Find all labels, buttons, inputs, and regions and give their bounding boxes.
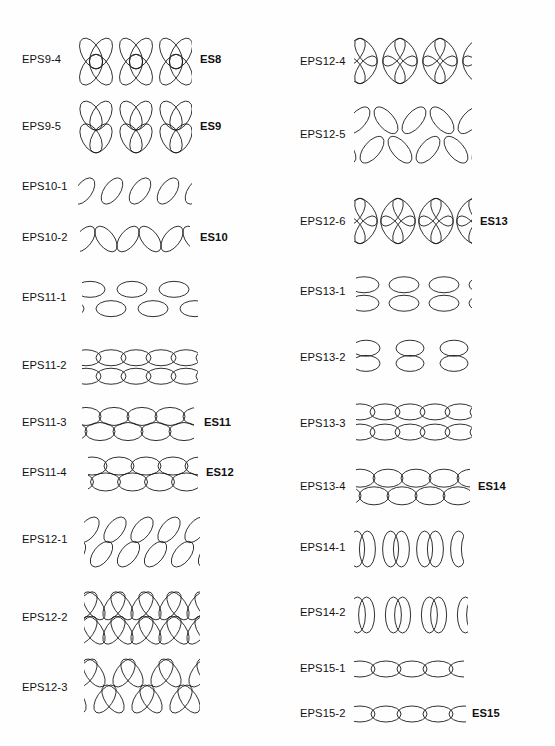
pattern-row-label: EPS10-2 [22, 232, 67, 243]
ellipse-pattern-graphic [354, 655, 464, 683]
ellipse-pattern-graphic [356, 398, 472, 446]
pattern-row-label: EPS13-1 [300, 286, 345, 297]
pattern-row-label: EPS13-4 [300, 481, 345, 492]
ellipse-pattern-graphic [354, 700, 466, 728]
ellipse-pattern-graphic [74, 30, 192, 86]
pattern-row-secondary-label: ES12 [206, 467, 234, 478]
pattern-row-label: EPS12-5 [300, 129, 345, 140]
ellipse-pattern-graphic [82, 345, 198, 389]
ellipse-pattern-graphic [356, 272, 472, 316]
pattern-row-secondary-label: ES10 [200, 232, 228, 243]
ellipse-pattern-graphic [78, 176, 192, 206]
pattern-row-secondary-label: ES15 [472, 708, 500, 719]
pattern-row-label: EPS12-6 [300, 216, 345, 227]
pattern-row-label: EPS15-1 [300, 663, 345, 674]
pattern-column-right: EPS12-4EPS12-5EPS12-6ES13EPS13-1EPS13-2E… [278, 0, 555, 746]
ellipse-pattern-graphic [356, 335, 472, 379]
ellipse-pattern-graphic [82, 276, 198, 322]
ellipse-pattern-graphic [356, 466, 470, 508]
pattern-row-label: EPS11-4 [22, 467, 67, 478]
ellipse-pattern-graphic [82, 406, 194, 442]
pattern-column-left: EPS9-4ES8EPS9-5ES9EPS10-1EPS10-2ES10EPS1… [0, 0, 277, 746]
ellipse-pattern-graphic [88, 455, 198, 493]
ellipse-pattern-graphic [354, 192, 472, 250]
ellipse-pattern-graphic [80, 223, 190, 255]
pattern-row-secondary-label: ES9 [200, 121, 221, 132]
pattern-row-secondary-label: ES14 [478, 481, 506, 492]
ellipse-pattern-graphic [354, 528, 464, 570]
pattern-row-label: EPS9-4 [22, 54, 61, 65]
pattern-row-label: EPS10-1 [22, 181, 67, 192]
pattern-row-label: EPS9-5 [22, 121, 61, 132]
pattern-row-secondary-label: ES13 [480, 216, 508, 227]
pattern-row-secondary-label: ES8 [200, 54, 221, 65]
figure-plate: EPS9-4ES8EPS9-5ES9EPS10-1EPS10-2ES10EPS1… [0, 0, 555, 746]
ellipse-pattern-graphic [354, 595, 468, 635]
pattern-row-label: EPS12-3 [22, 682, 67, 693]
pattern-row-label: EPS11-3 [22, 417, 67, 428]
pattern-row-label: EPS13-3 [300, 418, 345, 429]
pattern-row-label: EPS11-1 [22, 292, 67, 303]
pattern-row-label: EPS12-4 [300, 56, 345, 67]
ellipse-pattern-graphic [354, 32, 472, 90]
pattern-row-label: EPS14-1 [300, 542, 345, 553]
pattern-row-label: EPS12-1 [22, 534, 67, 545]
pattern-row-secondary-label: ES11 [204, 417, 231, 428]
pattern-row-label: EPS12-2 [22, 612, 67, 623]
ellipse-pattern-graphic [84, 513, 200, 571]
pattern-row-label: EPS14-2 [300, 607, 345, 618]
pattern-row-label: EPS15-2 [300, 708, 345, 719]
ellipse-pattern-graphic [84, 655, 200, 717]
ellipse-pattern-graphic [74, 100, 192, 154]
pattern-row-label: EPS13-2 [300, 352, 345, 363]
ellipse-pattern-graphic [84, 589, 200, 647]
ellipse-pattern-graphic [354, 100, 472, 170]
pattern-row-label: EPS11-2 [22, 360, 67, 371]
